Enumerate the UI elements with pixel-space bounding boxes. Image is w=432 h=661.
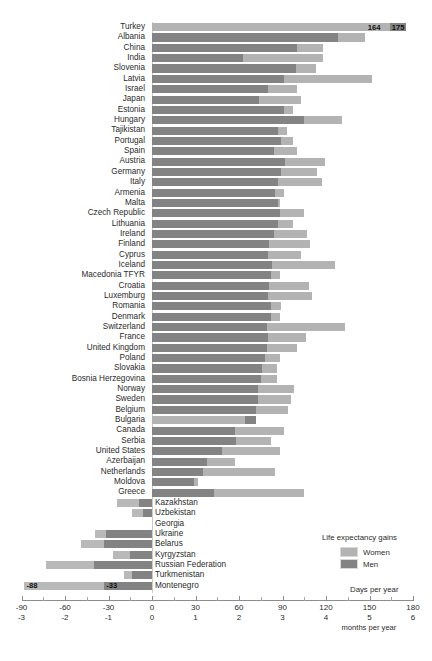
bar-men [152,44,297,52]
axis-tick [283,596,284,601]
axis-tick [109,596,110,601]
bar-men [152,168,281,176]
chart-row: Bulgaria [0,415,432,425]
bar-men [152,240,269,248]
bar-men [104,540,152,548]
axis-tick-minor [391,597,392,601]
bar-rows-container: Turkey164175AlbaniaChinaIndiaSloveniaLat… [0,22,432,591]
bar-men [152,106,284,114]
chart-row: Norway [0,384,432,394]
axis-days-title: Days per year [350,585,399,594]
country-label: Switzerland [0,322,145,332]
country-label: Latvia [0,74,145,84]
value-label-turkey-men: 175 [392,23,405,32]
chart-row: Denmark [0,312,432,322]
chart-row: Latvia [0,74,432,84]
chart-row: Georgia [0,519,432,529]
chart-row: Portugal [0,136,432,146]
chart-row: Kazakhstan [0,498,432,508]
axis-tick-minor [261,597,262,601]
chart-row: France [0,332,432,342]
chart-row: Bosnia Herzegovina [0,374,432,384]
chart-row: Netherlands [0,467,432,477]
axis-tick [413,596,414,601]
chart-row: Romania [0,301,432,311]
bar-men [152,447,222,455]
bar-men [152,313,271,321]
bar-men [152,33,338,41]
country-label: Serbia [0,436,145,446]
bar-men [152,478,194,486]
axis-tick-minor [130,597,131,601]
bar-men [152,354,265,362]
axis-tick-label-months: 5 [350,613,390,622]
country-label: Armenia [0,188,145,198]
chart-row: Finland [0,239,432,249]
axis-tick-label-months: 2 [219,613,259,622]
axis-tick-minor [217,597,218,601]
country-label: Azerbaijan [0,456,145,466]
bar-men [152,178,278,186]
chart-row: Greece [0,487,432,497]
bar-men [152,375,261,383]
legend-swatch-men-icon [340,559,358,569]
country-label: Belarus [155,539,345,549]
country-label: Spain [0,146,145,156]
country-label: Malta [0,198,145,208]
axis-tick-label-months: 4 [306,613,346,622]
axis-tick [22,596,23,601]
country-label: Cyprus [0,250,145,260]
country-label: Kyrgyzstan [155,550,345,560]
country-label: Slovenia [0,63,145,73]
axis-tick-label-days: -30 [89,603,129,612]
country-label: Hungary [0,115,145,125]
chart-row: Macedonia TFYR [0,270,432,280]
bar-men [152,271,271,279]
country-label: Ireland [0,229,145,239]
chart-row: Turkey164175 [0,22,432,32]
chart-row: Germany [0,167,432,177]
legend-title: Life expectancy gains [322,533,432,542]
axis-months-unit-label: months per year [342,623,397,632]
axis-tick-label-months: -1 [89,613,129,622]
axis-tick-label-months: -2 [45,613,85,622]
bar-men [152,437,236,445]
bar-men [152,147,274,155]
axis-tick-label-months: 0 [132,613,172,622]
bar-men [94,561,152,569]
axis-tick-label-months: 6 [393,613,432,622]
chart-row: Serbia [0,436,432,446]
chart-row: Hungary [0,115,432,125]
country-label: Austria [0,156,145,166]
bar-men [152,292,268,300]
bar-men [152,282,269,290]
bar-men [152,489,214,497]
bar-men [152,230,274,238]
country-label: Macedonia TFYR [0,270,145,280]
country-label: Czech Republic [0,208,145,218]
axis-tick-label-days: 90 [263,603,303,612]
legend-swatch-women-icon [340,547,358,557]
axis-tick [152,596,153,601]
chart-row: Azerbaijan [0,456,432,466]
country-label: Portugal [0,136,145,146]
chart-row: Luxemburg [0,291,432,301]
country-label: Greece [0,487,145,497]
bar-women [152,416,245,424]
country-label: Israel [0,84,145,94]
bar-women [152,23,390,31]
country-label: Canada [0,425,145,435]
bar-men [152,85,268,93]
chart-row: Malta [0,198,432,208]
bar-men [152,209,280,217]
axis-tick [196,596,197,601]
bar-men [152,199,278,207]
chart-row: Estonia [0,105,432,115]
country-label: Georgia [155,519,345,529]
axis-tick-label-days: -90 [2,603,42,612]
axis-tick-label-days: 30 [176,603,216,612]
country-label: Luxemburg [0,291,145,301]
bar-men [152,364,262,372]
axis-tick-label-days: 120 [306,603,346,612]
axis-tick-minor [348,597,349,601]
